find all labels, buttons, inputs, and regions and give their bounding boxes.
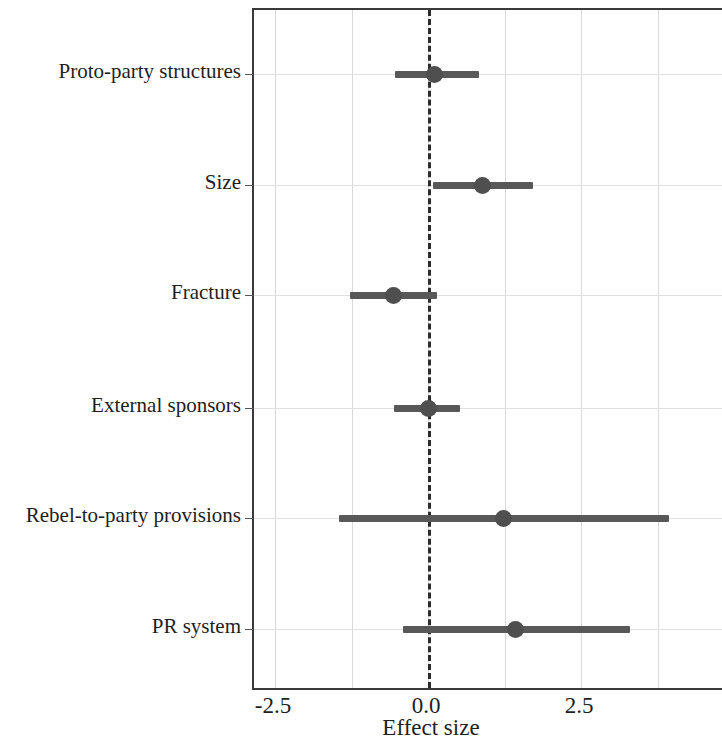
x-axis-title-text: Effect size (382, 715, 479, 740)
plot-area (252, 8, 722, 690)
y-axis-tick (245, 295, 254, 296)
y-axis-label-proto-party-structures: Proto-party structures (58, 61, 241, 82)
y-axis-tick (245, 185, 254, 186)
y-axis-label-pr-system: PR system (152, 616, 241, 637)
x-axis-tick-label: 2.5 (565, 694, 594, 717)
y-axis-label-size: Size (205, 172, 241, 193)
gridline-horizontal (254, 74, 722, 75)
gridline-horizontal (254, 408, 722, 409)
x-axis-title: Effect size (0, 716, 722, 739)
y-axis-tick (245, 74, 254, 75)
y-axis-label-external-sponsors: External sponsors (91, 395, 241, 416)
y-axis-label-rebel-to-party-provisions: Rebel-to-party provisions (26, 505, 241, 526)
x-axis-tick-label: 0.0 (412, 694, 441, 717)
point-estimate-marker (426, 66, 443, 83)
point-estimate-marker (495, 510, 512, 527)
gridline-vertical (581, 10, 582, 688)
gridline-vertical (505, 10, 506, 688)
point-estimate-marker (507, 621, 524, 638)
gridline-horizontal (254, 295, 722, 296)
point-estimate-marker (474, 177, 491, 194)
coefficient-plot-figure: Proto-party structuresSizeFractureExtern… (0, 0, 722, 743)
y-axis-tick (245, 629, 254, 630)
y-axis-tick (245, 408, 254, 409)
zero-reference-line (428, 10, 431, 688)
gridline-vertical (658, 10, 659, 688)
y-axis-label-fracture: Fracture (171, 282, 241, 303)
gridline-vertical (275, 10, 276, 688)
point-estimate-marker (420, 400, 437, 417)
x-axis-tick-label: -2.5 (255, 694, 291, 717)
point-estimate-marker (385, 287, 402, 304)
gridline-vertical (352, 10, 353, 688)
y-axis-tick (245, 518, 254, 519)
